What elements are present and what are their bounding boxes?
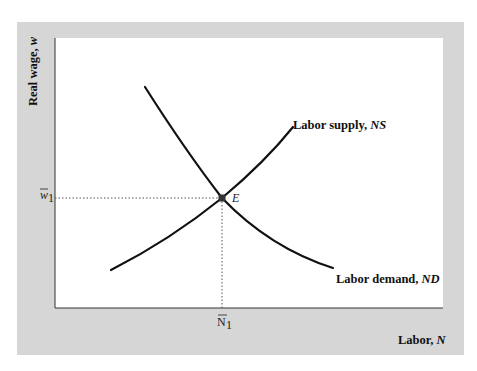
x-tick-n1: N 1 — [217, 315, 232, 332]
svg-text:1: 1 — [48, 191, 54, 205]
labor-supply-label: Labor supply, NS — [293, 118, 386, 132]
svg-text:N: N — [217, 315, 226, 329]
y-tick-w1: w 1 — [40, 188, 54, 205]
labor-market-chart: E Labor supply, NS Labor demand, ND w 1 … — [0, 0, 477, 371]
equilibrium-point — [219, 195, 226, 202]
labor-demand-label: Labor demand, ND — [336, 272, 440, 286]
y-axis-label: Real wage, w — [26, 36, 40, 106]
x-axis-label: Labor, N — [398, 333, 446, 347]
svg-text:w: w — [40, 188, 48, 202]
svg-text:1: 1 — [226, 318, 232, 332]
equilibrium-label: E — [231, 191, 240, 205]
labor-demand-curve — [145, 87, 333, 268]
